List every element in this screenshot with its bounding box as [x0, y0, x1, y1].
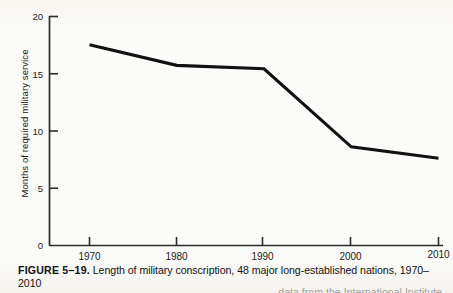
x-tick-label-1980: 1980: [165, 251, 188, 262]
figure-number: FIGURE 5–19.: [18, 264, 90, 276]
x-tick-label-2000: 2000: [339, 251, 362, 262]
x-tick-label-1990: 1990: [251, 251, 274, 262]
x-tick-label-1970: 1970: [78, 251, 101, 262]
y-tick-label-0: 0: [38, 240, 43, 251]
x-tick-label-2010: 2010: [427, 249, 450, 260]
y-tick-label-10: 10: [32, 126, 43, 137]
line-chart-svg: 20 15 10 5 0 1970 1980 1990 2000 2010: [0, 0, 453, 266]
y-tick-label-20: 20: [32, 11, 43, 22]
y-axis-ticks: [50, 17, 59, 189]
y-tick-label-15: 15: [32, 69, 43, 80]
chart-area: Months of required military service: [0, 0, 453, 266]
figure-container: Months of required military service: [0, 0, 453, 293]
data-line-military-service: [90, 45, 439, 159]
y-tick-label-5: 5: [38, 183, 43, 194]
x-axis-ticks: [90, 237, 439, 246]
figure-caption-continued: data from the International Institute: [18, 286, 442, 293]
